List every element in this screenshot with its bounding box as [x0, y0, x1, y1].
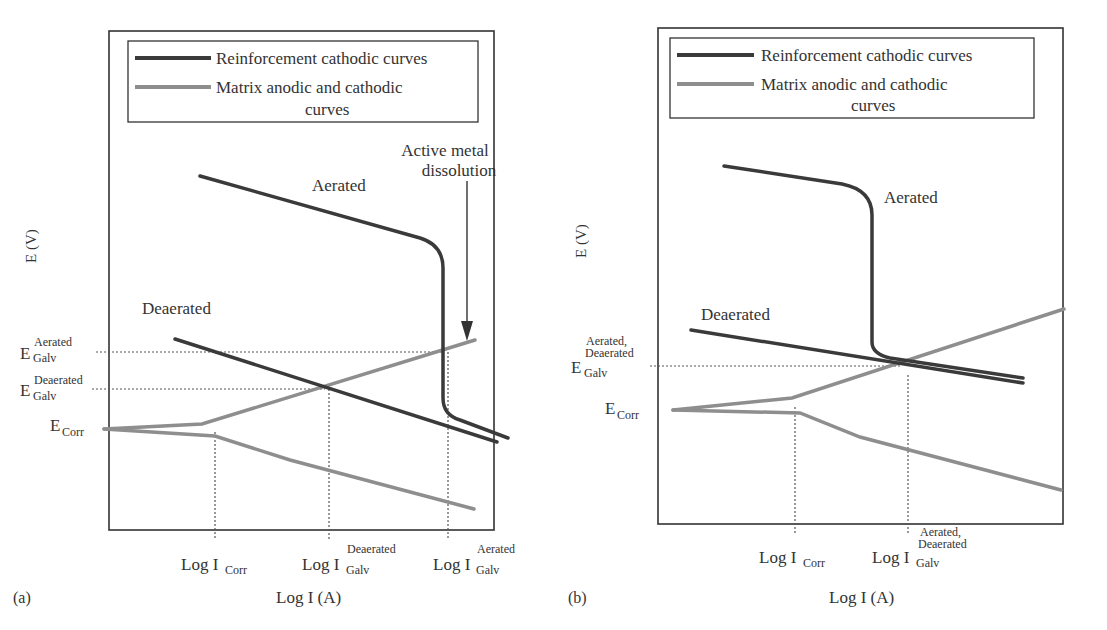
- label-deaerated: Deaerated: [701, 305, 770, 324]
- svg-text:Galv: Galv: [33, 351, 56, 365]
- x-axis-label: Log I (A): [276, 588, 341, 607]
- panel-b: Reinforcement cathodic curves Matrix ano…: [568, 28, 1064, 607]
- legend-reinforcement-label: Reinforcement cathodic curves: [761, 46, 972, 65]
- panel-b-legend: Reinforcement cathodic curves Matrix ano…: [670, 38, 1034, 118]
- panel-a-matrix-curves: [104, 340, 475, 509]
- svg-text:Corr: Corr: [225, 563, 247, 577]
- e-galv-label: Aerated, Deaerated E Galv: [571, 334, 634, 380]
- label-aerated: Aerated: [312, 176, 366, 195]
- svg-text:Log I: Log I: [759, 548, 797, 567]
- label-aerated: Aerated: [884, 188, 938, 207]
- panel-a-legend: Reinforcement cathodic curves Matrix ano…: [128, 41, 478, 122]
- panel-b-guides: [650, 366, 908, 535]
- svg-text:Galv: Galv: [33, 389, 56, 403]
- svg-text:Corr: Corr: [62, 425, 84, 439]
- active-metal-dissolution-annotation: Active metal dissolution: [401, 141, 496, 341]
- log-i-galv-label: Log I Aerated, Deaerated Galv: [872, 525, 967, 570]
- svg-text:Log I: Log I: [433, 555, 471, 574]
- svg-text:Galv: Galv: [584, 366, 607, 380]
- legend-matrix-label-line1: Matrix anodic and cathodic: [761, 75, 948, 94]
- svg-text:Log I: Log I: [181, 555, 219, 574]
- log-i-galv-deaerated-label: Log I Deaerated Galv: [302, 542, 396, 577]
- e-galv-aerated-label: E Aerated Galv: [20, 335, 72, 365]
- panel-a-tag: (a): [13, 589, 31, 607]
- svg-text:E: E: [50, 416, 60, 435]
- svg-text:E: E: [20, 344, 30, 363]
- panel-a: Reinforcement cathodic curves Matrix ano…: [13, 31, 515, 607]
- y-axis-label: E (V): [23, 229, 40, 263]
- svg-text:Corr: Corr: [803, 556, 825, 570]
- svg-text:Galv: Galv: [916, 556, 939, 570]
- log-i-corr-label: Log I Corr: [759, 548, 825, 570]
- legend-matrix-label-line2: curves: [851, 96, 895, 115]
- reinforcement-deaerated-curve: [175, 339, 497, 442]
- log-i-corr-label: Log I Corr: [181, 555, 247, 577]
- panel-a-reinforcement-curves: [175, 176, 508, 442]
- matrix-cathodic-curve: [104, 429, 474, 509]
- log-i-galv-aerated-label: Log I Aerated Galv: [433, 542, 515, 577]
- label-deaerated: Deaerated: [142, 299, 211, 318]
- arrow-head-icon: [461, 321, 473, 341]
- legend-matrix-label-line1: Matrix anodic and cathodic: [216, 78, 403, 97]
- annotation-line1: Active metal: [401, 141, 489, 160]
- svg-text:Aerated: Aerated: [477, 542, 515, 556]
- matrix-cathodic-curve: [673, 410, 1061, 490]
- svg-text:Deaerated: Deaerated: [918, 537, 967, 551]
- svg-text:E: E: [571, 358, 581, 377]
- svg-text:E: E: [20, 381, 30, 400]
- panel-a-guides: [92, 352, 448, 540]
- annotation-line2: dissolution: [422, 161, 497, 180]
- svg-text:E: E: [605, 399, 615, 418]
- e-galv-deaerated-label: E Deaerated Galv: [20, 373, 83, 403]
- svg-text:Galv: Galv: [346, 563, 369, 577]
- e-corr-label: E Corr: [50, 416, 84, 439]
- legend-matrix-label-line2: curves: [305, 100, 349, 119]
- galvanic-corrosion-diagram: Reinforcement cathodic curves Matrix ano…: [0, 0, 1107, 630]
- svg-text:Deaerated: Deaerated: [34, 373, 83, 387]
- legend-reinforcement-label: Reinforcement cathodic curves: [216, 49, 427, 68]
- reinforcement-aerated-curve: [200, 176, 508, 438]
- panel-b-tag: (b): [568, 589, 587, 607]
- svg-text:Galv: Galv: [476, 563, 499, 577]
- y-axis-label: E (V): [573, 224, 590, 258]
- svg-text:Log I: Log I: [872, 548, 910, 567]
- panel-b-reinforcement-curves: [691, 166, 1023, 383]
- svg-text:Log I: Log I: [302, 555, 340, 574]
- reinforcement-aerated-curve: [724, 166, 1023, 378]
- svg-text:Deaerated: Deaerated: [585, 346, 634, 360]
- x-axis-label: Log I (A): [829, 588, 894, 607]
- svg-text:Deaerated: Deaerated: [347, 542, 396, 556]
- svg-text:Corr: Corr: [617, 408, 639, 422]
- e-corr-label: E Corr: [605, 399, 639, 422]
- svg-text:Aerated: Aerated: [34, 335, 72, 349]
